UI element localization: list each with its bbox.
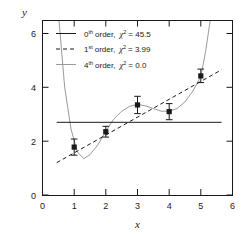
ytick-label-4: 4 xyxy=(31,83,36,93)
data-point xyxy=(71,139,78,155)
legend-entry-1st-order[interactable]: 1storder,χ2= 3.99 xyxy=(56,44,151,54)
xtick-label-0: 0 xyxy=(40,201,45,211)
data-point xyxy=(166,104,173,120)
xtick-label-2: 2 xyxy=(103,201,108,211)
xtick-label-5: 5 xyxy=(198,201,203,211)
legend-entry-0th-order[interactable]: 0thorder,χ2= 45.5 xyxy=(56,29,151,39)
legend-entry-4th-order[interactable]: 4thorder,χ2= 0.0 xyxy=(56,60,147,70)
ytick-label-2: 2 xyxy=(31,137,36,147)
y-axis-label: y xyxy=(21,6,27,18)
x-axis-label: x xyxy=(134,218,140,230)
xtick-label-6: 6 xyxy=(230,201,235,211)
legend-label-0th-order: 0thorder,χ2= 45.5 xyxy=(84,29,151,39)
chart-canvas: 0 2 4 6 0 1 2 3 4 5 6 x y xyxy=(0,0,249,235)
data-point-group xyxy=(71,69,204,155)
fit-curve-4th-order xyxy=(59,21,210,159)
ytick-label-6: 6 xyxy=(31,29,36,39)
polynomial-fit-chart: 0 2 4 6 0 1 2 3 4 5 6 x y xyxy=(0,0,249,235)
xtick-label-1: 1 xyxy=(72,201,77,211)
xtick-label-4: 4 xyxy=(167,201,172,211)
xtick-label-3: 3 xyxy=(135,201,140,211)
legend-label-1st-order: 1storder,χ2= 3.99 xyxy=(84,44,151,54)
legend-label-4th-order: 4thorder,χ2= 0.0 xyxy=(84,60,147,70)
legend: 0thorder,χ2= 45.5 1storder,χ2= 3.99 4tho… xyxy=(56,29,151,70)
data-point xyxy=(134,96,141,113)
ytick-label-0: 0 xyxy=(31,191,36,201)
